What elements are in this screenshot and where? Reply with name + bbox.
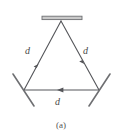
ring-cavity-diagram bbox=[0, 0, 122, 139]
beam-right-arm bbox=[61, 21, 99, 90]
label-bottom-arm-length: d bbox=[55, 97, 60, 107]
arrowhead-left-arm bbox=[34, 64, 39, 68]
label-right-arm-length: d bbox=[83, 46, 88, 56]
arrowhead-bottom-arm bbox=[57, 87, 63, 92]
top-mirror bbox=[42, 16, 82, 19]
figure-container: d d d (a) bbox=[0, 0, 122, 139]
figure-caption: (a) bbox=[0, 120, 122, 131]
label-left-arm-length: d bbox=[25, 46, 30, 56]
